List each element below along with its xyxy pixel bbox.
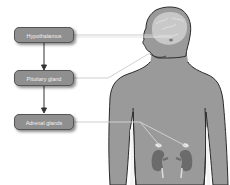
pituitary-gland-label: Pituitary gland bbox=[27, 76, 62, 82]
adrenal-glands-label: Adrenal glands bbox=[26, 120, 63, 126]
pituitary-gland-box: Pituitary gland bbox=[14, 70, 74, 86]
hypothalamus-label: Hypothalamus bbox=[26, 33, 61, 39]
pituitary-spot bbox=[169, 39, 173, 42]
adrenal-glands-box: Adrenal glands bbox=[14, 114, 74, 130]
hpa-axis-diagram: Hypothalamus Pituitary gland Adrenal gla… bbox=[0, 0, 230, 185]
body-silhouette bbox=[109, 62, 228, 185]
hypothalamus-box: Hypothalamus bbox=[14, 27, 74, 43]
